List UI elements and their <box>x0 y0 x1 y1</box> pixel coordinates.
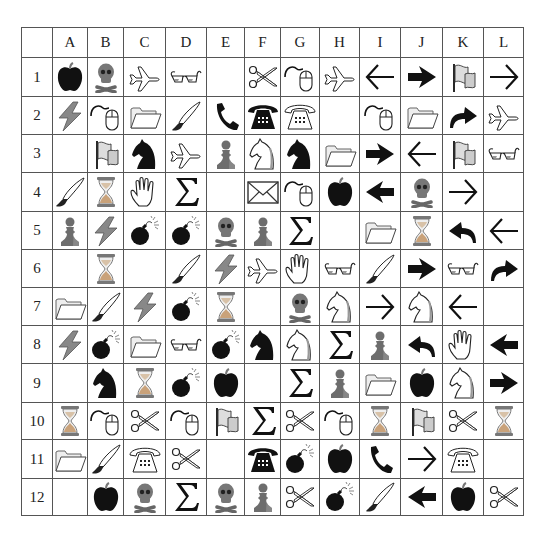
cell-d7[interactable] <box>166 288 207 326</box>
cell-e2[interactable] <box>207 97 245 135</box>
cell-j10[interactable] <box>401 403 443 440</box>
cell-i2[interactable] <box>360 97 401 135</box>
cell-l2[interactable] <box>484 97 524 135</box>
cell-d6[interactable] <box>166 250 207 288</box>
cell-g3[interactable] <box>281 135 320 173</box>
cell-b9[interactable] <box>88 364 124 403</box>
cell-g12[interactable] <box>281 479 320 516</box>
cell-g8[interactable] <box>281 326 320 364</box>
cell-a12[interactable] <box>53 479 88 516</box>
cell-f6[interactable] <box>245 250 281 288</box>
cell-d12[interactable] <box>166 479 207 516</box>
cell-j5[interactable] <box>401 212 443 250</box>
cell-h7[interactable] <box>320 288 360 326</box>
cell-k4[interactable] <box>443 173 484 212</box>
cell-a9[interactable] <box>53 364 88 403</box>
cell-c7[interactable] <box>124 288 166 326</box>
cell-f2[interactable] <box>245 97 281 135</box>
cell-j9[interactable] <box>401 364 443 403</box>
cell-l4[interactable] <box>484 173 524 212</box>
cell-h4[interactable] <box>320 173 360 212</box>
cell-k5[interactable] <box>443 212 484 250</box>
cell-i6[interactable] <box>360 250 401 288</box>
cell-j2[interactable] <box>401 97 443 135</box>
cell-i1[interactable] <box>360 58 401 97</box>
cell-h12[interactable] <box>320 479 360 516</box>
cell-f10[interactable] <box>245 403 281 440</box>
cell-b11[interactable] <box>88 440 124 479</box>
cell-g11[interactable] <box>281 440 320 479</box>
cell-b10[interactable] <box>88 403 124 440</box>
cell-b6[interactable] <box>88 250 124 288</box>
cell-c11[interactable] <box>124 440 166 479</box>
cell-k6[interactable] <box>443 250 484 288</box>
cell-i10[interactable] <box>360 403 401 440</box>
cell-g4[interactable] <box>281 173 320 212</box>
cell-c12[interactable] <box>124 479 166 516</box>
cell-g9[interactable] <box>281 364 320 403</box>
cell-h11[interactable] <box>320 440 360 479</box>
cell-l12[interactable] <box>484 479 524 516</box>
cell-f7[interactable] <box>245 288 281 326</box>
cell-a5[interactable] <box>53 212 88 250</box>
cell-j12[interactable] <box>401 479 443 516</box>
cell-e9[interactable] <box>207 364 245 403</box>
cell-l7[interactable] <box>484 288 524 326</box>
cell-k12[interactable] <box>443 479 484 516</box>
cell-b1[interactable] <box>88 58 124 97</box>
cell-e6[interactable] <box>207 250 245 288</box>
cell-f3[interactable] <box>245 135 281 173</box>
cell-c1[interactable] <box>124 58 166 97</box>
cell-i7[interactable] <box>360 288 401 326</box>
cell-l5[interactable] <box>484 212 524 250</box>
cell-i8[interactable] <box>360 326 401 364</box>
cell-j7[interactable] <box>401 288 443 326</box>
cell-d11[interactable] <box>166 440 207 479</box>
cell-h1[interactable] <box>320 58 360 97</box>
cell-d5[interactable] <box>166 212 207 250</box>
cell-l3[interactable] <box>484 135 524 173</box>
cell-l1[interactable] <box>484 58 524 97</box>
cell-h8[interactable] <box>320 326 360 364</box>
cell-l6[interactable] <box>484 250 524 288</box>
cell-j8[interactable] <box>401 326 443 364</box>
cell-l9[interactable] <box>484 364 524 403</box>
cell-b2[interactable] <box>88 97 124 135</box>
cell-d3[interactable] <box>166 135 207 173</box>
cell-b5[interactable] <box>88 212 124 250</box>
cell-k3[interactable] <box>443 135 484 173</box>
cell-h2[interactable] <box>320 97 360 135</box>
cell-e11[interactable] <box>207 440 245 479</box>
cell-d10[interactable] <box>166 403 207 440</box>
cell-b12[interactable] <box>88 479 124 516</box>
cell-h6[interactable] <box>320 250 360 288</box>
cell-l10[interactable] <box>484 403 524 440</box>
cell-c4[interactable] <box>124 173 166 212</box>
cell-a1[interactable] <box>53 58 88 97</box>
cell-a7[interactable] <box>53 288 88 326</box>
cell-e10[interactable] <box>207 403 245 440</box>
cell-k10[interactable] <box>443 403 484 440</box>
cell-d8[interactable] <box>166 326 207 364</box>
cell-i4[interactable] <box>360 173 401 212</box>
cell-i5[interactable] <box>360 212 401 250</box>
cell-k1[interactable] <box>443 58 484 97</box>
cell-i3[interactable] <box>360 135 401 173</box>
cell-h10[interactable] <box>320 403 360 440</box>
cell-h5[interactable] <box>320 212 360 250</box>
cell-f4[interactable] <box>245 173 281 212</box>
cell-a3[interactable] <box>53 135 88 173</box>
cell-a8[interactable] <box>53 326 88 364</box>
cell-k8[interactable] <box>443 326 484 364</box>
cell-k11[interactable] <box>443 440 484 479</box>
cell-a11[interactable] <box>53 440 88 479</box>
cell-h3[interactable] <box>320 135 360 173</box>
cell-c3[interactable] <box>124 135 166 173</box>
cell-b8[interactable] <box>88 326 124 364</box>
cell-l8[interactable] <box>484 326 524 364</box>
cell-c10[interactable] <box>124 403 166 440</box>
cell-f5[interactable] <box>245 212 281 250</box>
cell-g2[interactable] <box>281 97 320 135</box>
cell-g1[interactable] <box>281 58 320 97</box>
cell-d2[interactable] <box>166 97 207 135</box>
